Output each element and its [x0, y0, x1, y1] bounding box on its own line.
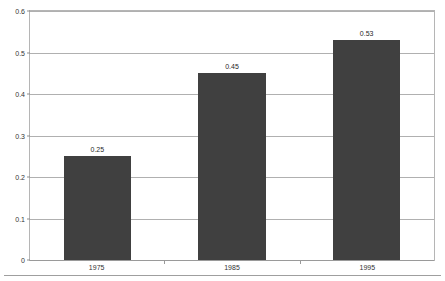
bar-1975[interactable] [64, 156, 131, 260]
y-axis-tick-label: 0.6 [15, 8, 25, 15]
bar-group: 0.53 [333, 11, 400, 260]
y-tick-mark [27, 177, 30, 178]
bar-1995[interactable] [333, 40, 400, 260]
bar-chart-figure: 00.10.20.30.40.50.60.250.450.53 19751985… [0, 0, 445, 281]
plot-area: 00.10.20.30.40.50.60.250.450.53 [29, 10, 435, 261]
x-axis-tick-label-1995: 1995 [360, 264, 376, 271]
bottom-divider [4, 275, 441, 276]
y-axis-tick-label: 0.3 [15, 132, 25, 139]
y-tick-mark [27, 218, 30, 219]
y-axis-tick-label: 0.1 [15, 215, 25, 222]
bar-1985[interactable] [198, 73, 265, 260]
bar-value-label-1995: 0.53 [333, 30, 400, 37]
x-axis-tick-label-1975: 1975 [89, 264, 105, 271]
x-tick-mark [164, 261, 165, 264]
bar-group: 0.45 [198, 11, 265, 260]
bar-group: 0.25 [64, 11, 131, 260]
y-axis-tick-label: 0 [21, 257, 25, 264]
bar-value-label-1975: 0.25 [64, 146, 131, 153]
x-axis-tick-label-1985: 1985 [224, 264, 240, 271]
y-tick-mark [27, 135, 30, 136]
y-axis-tick-label: 0.4 [15, 91, 25, 98]
y-tick-mark [27, 11, 30, 12]
x-tick-mark [300, 261, 301, 264]
y-tick-mark [27, 94, 30, 95]
y-axis-tick-label: 0.2 [15, 174, 25, 181]
y-tick-mark [27, 52, 30, 53]
bar-value-label-1985: 0.45 [198, 63, 265, 70]
y-axis-tick-label: 0.5 [15, 49, 25, 56]
